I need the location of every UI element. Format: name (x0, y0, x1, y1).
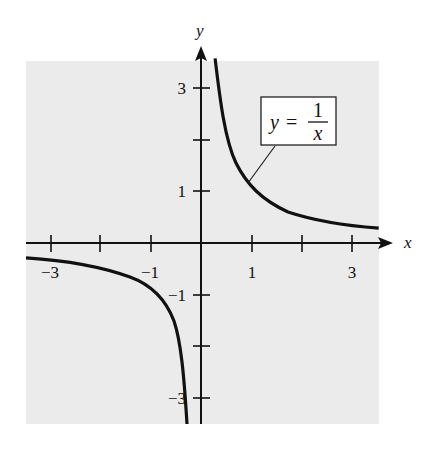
y-tick-label: −1 (168, 286, 186, 305)
annotation-lhs: y (268, 111, 279, 134)
x-axis-label: x (403, 233, 412, 252)
y-tick-label: 3 (178, 79, 187, 98)
x-tick-label: 3 (348, 263, 357, 282)
x-tick-label: −3 (41, 263, 59, 282)
y-axis-label: y (194, 21, 204, 40)
annotation-equals: = (286, 111, 297, 133)
y-tick-label: 1 (178, 182, 187, 201)
x-tick-label: 1 (248, 263, 257, 282)
hyperbola-chart: −3 −1 1 3 3 1 −1 −3 x y y = 1 x (0, 0, 430, 454)
x-tick-label: −1 (141, 263, 159, 282)
annotation-denominator: x (313, 122, 323, 144)
annotation-numerator: 1 (313, 99, 323, 121)
